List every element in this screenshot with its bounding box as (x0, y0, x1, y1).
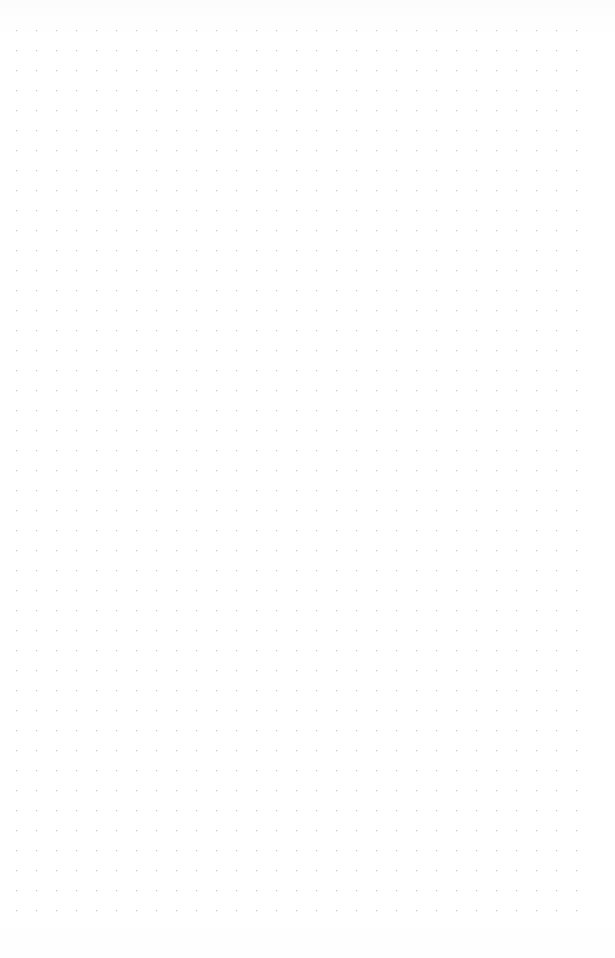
note-layer[interactable] (0, 0, 615, 958)
writing-surface[interactable] (0, 0, 615, 958)
dot-grid-page: Blank dotted grid notebook page with no … (0, 0, 615, 958)
